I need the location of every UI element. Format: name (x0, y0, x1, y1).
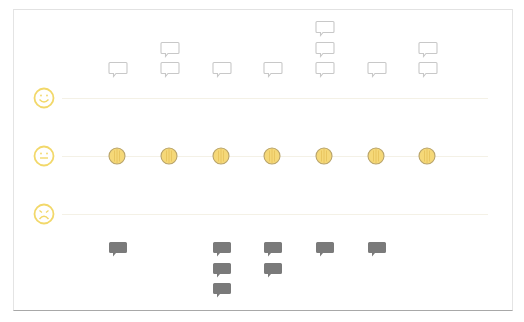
comment-filled-icon (315, 241, 335, 258)
comment-filled-icon (212, 282, 232, 299)
comment-outline-icon (367, 61, 387, 78)
comment-filled-icon (212, 262, 232, 279)
neutral-marker-dot (263, 147, 281, 165)
neutral-marker-dot (315, 147, 333, 165)
comment-outline-icon (418, 61, 438, 78)
comment-filled-icon (263, 262, 283, 279)
comment-outline-icon (418, 41, 438, 58)
comment-outline-icon (108, 61, 128, 78)
smiley-neutral-icon (33, 145, 55, 167)
smiley-happy-icon (33, 87, 55, 109)
comment-outline-icon (315, 20, 335, 37)
comment-outline-icon (160, 61, 180, 78)
comment-outline-icon (315, 41, 335, 58)
comment-outline-icon (160, 41, 180, 58)
comment-filled-icon (108, 241, 128, 258)
comment-filled-icon (263, 241, 283, 258)
smiley-sad-icon (33, 203, 55, 225)
neutral-marker-dot (367, 147, 385, 165)
neutral-marker-dot (418, 147, 436, 165)
comment-outline-icon (212, 61, 232, 78)
comment-filled-icon (212, 241, 232, 258)
comment-filled-icon (367, 241, 387, 258)
comment-outline-icon (315, 61, 335, 78)
neutral-marker-dot (212, 147, 230, 165)
neutral-marker-dot (160, 147, 178, 165)
row-line-negative (62, 214, 488, 215)
neutral-marker-dot (108, 147, 126, 165)
row-line-positive (62, 98, 488, 99)
comment-outline-icon (263, 61, 283, 78)
